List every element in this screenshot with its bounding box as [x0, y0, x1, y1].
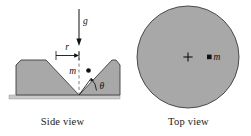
physics-figure: g r m θ m Side view Top view [0, 0, 251, 136]
radius-label: r [65, 42, 69, 52]
gravity-arrow [76, 9, 81, 46]
gravity-label: g [83, 16, 88, 26]
top-view-group: m [137, 6, 239, 108]
v-groove-block [16, 60, 120, 95]
point-mass-side-dot [86, 68, 91, 73]
mass-label-top: m [214, 52, 221, 62]
side-view-group: g r m θ [9, 9, 120, 99]
radius-dimension [56, 51, 79, 60]
ground-surface [9, 95, 120, 99]
caption-top-view: Top view [126, 116, 251, 127]
caption-side-view: Side view [0, 116, 125, 127]
point-mass-top-dot [207, 55, 212, 60]
mass-label-side: m [69, 66, 76, 76]
angle-label: θ [100, 81, 105, 91]
